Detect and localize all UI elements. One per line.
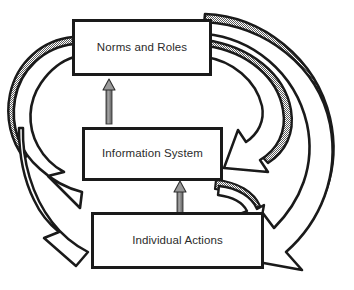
node-information-system: Information System [82,127,223,181]
node-label-individual-actions: Individual Actions [132,235,223,247]
thin-arrow-actions-to-infosys [174,181,186,213]
diagram-canvas: Norms and Roles Information System Indiv… [0,0,354,290]
thin-arrow-infosys-to-norms [103,79,115,124]
node-label-norms-and-roles: Norms and Roles [97,42,187,54]
node-norms-and-roles: Norms and Roles [72,19,212,76]
node-individual-actions: Individual Actions [91,212,264,269]
node-label-information-system: Information System [102,148,203,160]
